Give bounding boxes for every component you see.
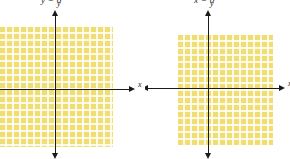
y-axis-arrow-down-icon-right xyxy=(205,153,211,159)
x-axis-label-left: x xyxy=(138,81,142,89)
y-axis-arrow-up-icon-left xyxy=(52,10,58,16)
y-axis-arrow-up-icon-right xyxy=(205,10,211,16)
shaded-solution-region-right xyxy=(178,35,273,145)
x-axis-arrow-right-icon-right xyxy=(279,85,285,91)
x-axis-arrow-right-icon-left xyxy=(129,86,135,92)
graph-figure: y = 0 y x x = 0 y x xyxy=(0,0,290,159)
graph-panel-right: x = 0 y x xyxy=(145,0,290,159)
x-axis-arrow-left-icon-right xyxy=(145,85,148,91)
y-axis-arrow-down-icon-left xyxy=(52,153,58,159)
y-axis-label-right: y xyxy=(210,0,214,8)
y-axis-right xyxy=(208,16,209,153)
y-axis-left xyxy=(55,16,56,153)
graph-panel-left: y = 0 y x xyxy=(0,0,145,159)
x-axis-left xyxy=(0,89,129,90)
x-axis-label-right: x xyxy=(288,80,290,88)
x-axis-right xyxy=(148,88,279,89)
shaded-solution-region-left xyxy=(0,27,113,147)
y-axis-label-left: y xyxy=(57,0,61,8)
